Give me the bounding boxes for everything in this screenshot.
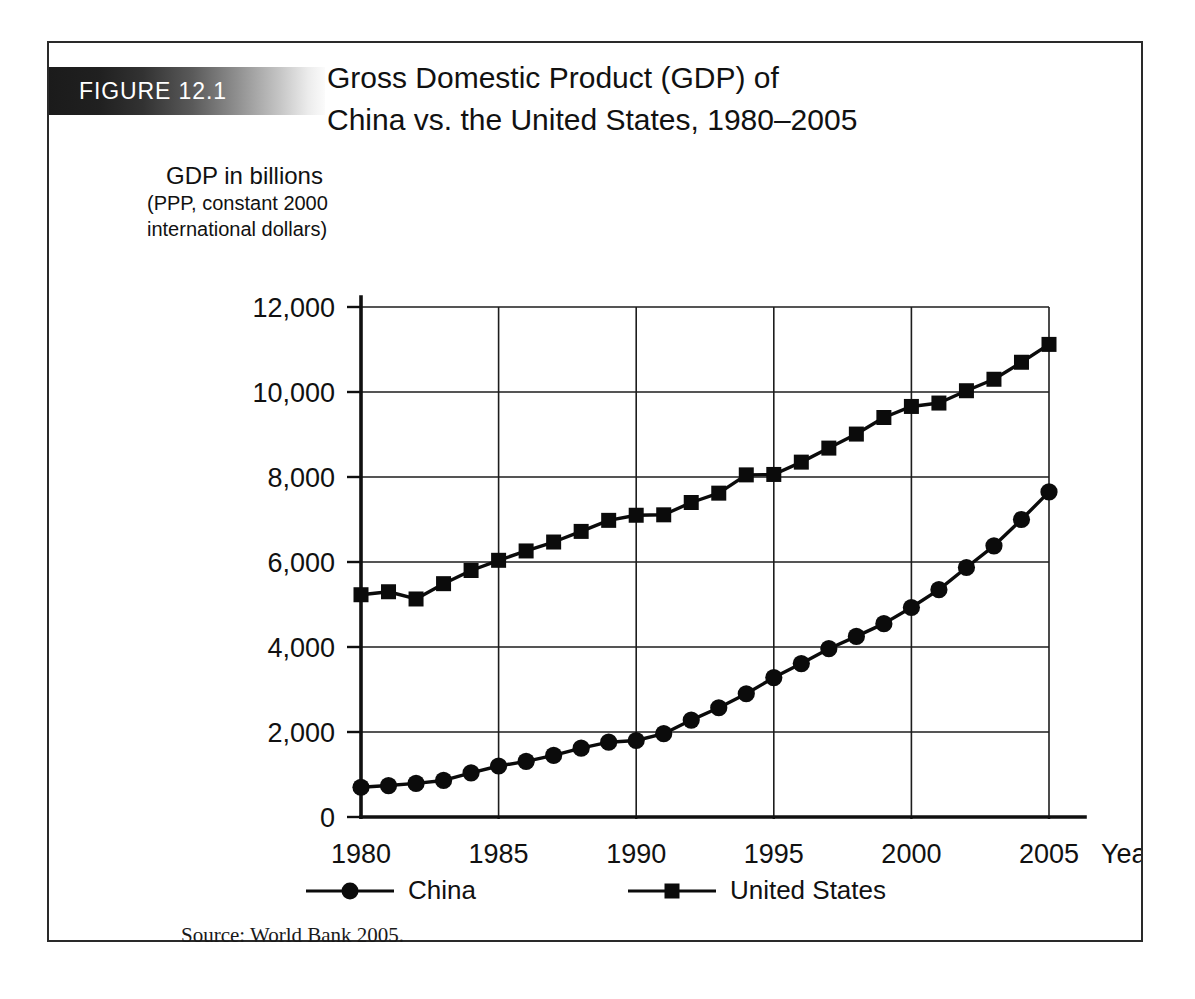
data-point-marker — [491, 553, 506, 568]
legend-label-united-states: United States — [730, 875, 886, 906]
y-tick-label: 12,000 — [252, 293, 335, 323]
y-tick-label: 10,000 — [252, 378, 335, 408]
gridlines-group — [361, 307, 1049, 817]
series-china — [352, 483, 1057, 796]
tick-labels-group: 02,0004,0006,0008,00010,00012,0001980198… — [252, 293, 1079, 869]
data-point-marker — [409, 591, 424, 606]
data-point-marker — [684, 495, 699, 510]
tick-marks-group — [347, 307, 1049, 819]
data-point-marker — [710, 699, 727, 716]
figure-frame: FIGURE 12.1 Gross Domestic Product (GDP)… — [47, 41, 1143, 942]
legend-item-united-states: United States — [626, 875, 886, 906]
data-point-marker — [794, 455, 809, 470]
data-point-marker — [683, 712, 700, 729]
y-tick-label: 4,000 — [267, 633, 335, 663]
data-point-marker — [1040, 483, 1057, 500]
data-point-marker — [848, 628, 865, 645]
figure-title-line-2: China vs. the United States, 1980–2005 — [327, 99, 1027, 141]
data-point-marker — [711, 486, 726, 501]
data-point-marker — [903, 599, 920, 616]
series-united-states — [354, 337, 1057, 607]
x-tick-label: 1995 — [744, 839, 804, 869]
data-point-marker — [490, 757, 507, 774]
data-point-marker — [766, 467, 781, 482]
series-group — [352, 337, 1057, 796]
figure-number-banner: FIGURE 12.1 — [49, 67, 325, 115]
y-axis-caption: GDP in billions (PPP, constant 2000 inte… — [147, 161, 477, 242]
data-point-marker — [985, 537, 1002, 554]
data-point-marker — [931, 396, 946, 411]
data-point-marker — [738, 685, 755, 702]
data-point-marker — [1042, 337, 1057, 352]
data-point-marker — [546, 535, 561, 550]
data-point-marker — [739, 467, 754, 482]
source-note: Source: World Bank 2005. — [181, 923, 404, 948]
data-point-marker — [407, 775, 424, 792]
legend-marker-square-icon — [626, 878, 718, 904]
data-point-marker — [1013, 511, 1030, 528]
x-tick-label: 1980 — [331, 839, 391, 869]
y-axis-caption-main: GDP in billions — [147, 161, 477, 190]
data-point-marker — [986, 372, 1001, 387]
figure-title-line-1: Gross Domestic Product (GDP) of — [327, 57, 1027, 99]
data-point-marker — [820, 640, 837, 657]
data-point-marker — [601, 513, 616, 528]
y-tick-label: 0 — [320, 803, 335, 833]
legend-item-china: China — [304, 875, 476, 906]
chart-legend: China United States — [49, 875, 1141, 906]
y-axis-caption-sub-1: (PPP, constant 2000 — [147, 190, 477, 216]
data-point-marker — [656, 507, 671, 522]
data-point-marker — [464, 563, 479, 578]
data-point-marker — [518, 753, 535, 770]
data-point-marker — [765, 669, 782, 686]
figure-number-label: FIGURE 12.1 — [49, 78, 227, 105]
data-point-marker — [574, 524, 589, 539]
x-axis-name: Year — [1101, 839, 1141, 869]
data-point-marker — [959, 383, 974, 398]
y-tick-label: 6,000 — [267, 548, 335, 578]
data-point-marker — [519, 543, 534, 558]
data-point-marker — [849, 427, 864, 442]
data-point-marker — [380, 777, 397, 794]
axis-name-group: Year — [1101, 839, 1141, 869]
legend-label-china: China — [408, 875, 476, 906]
x-tick-label: 1985 — [469, 839, 529, 869]
figure-title: Gross Domestic Product (GDP) of China vs… — [327, 57, 1027, 141]
axis-lines-group — [361, 297, 1085, 817]
data-point-marker — [545, 747, 562, 764]
data-point-marker — [436, 576, 451, 591]
x-tick-label: 2000 — [881, 839, 941, 869]
legend-marker-circle-icon — [304, 878, 396, 904]
y-tick-label: 2,000 — [267, 718, 335, 748]
y-tick-label: 8,000 — [267, 463, 335, 493]
data-point-marker — [793, 655, 810, 672]
data-point-marker — [930, 581, 947, 598]
series-line — [361, 492, 1049, 787]
data-point-marker — [352, 779, 369, 796]
data-point-marker — [381, 584, 396, 599]
data-point-marker — [354, 587, 369, 602]
data-point-marker — [821, 441, 836, 456]
data-point-marker — [600, 734, 617, 751]
data-point-marker — [958, 559, 975, 576]
data-point-marker — [655, 725, 672, 742]
data-point-marker — [573, 740, 590, 757]
data-point-marker — [435, 772, 452, 789]
data-point-marker — [876, 410, 891, 425]
chart-svg: 02,0004,0006,0008,00010,00012,0001980198… — [49, 233, 1141, 873]
x-tick-label: 2005 — [1019, 839, 1079, 869]
data-point-marker — [629, 508, 644, 523]
data-point-marker — [462, 764, 479, 781]
data-point-marker — [628, 732, 645, 749]
data-point-marker — [904, 399, 919, 414]
line-chart-plot: 02,0004,0006,0008,00010,00012,0001980198… — [49, 233, 1141, 873]
figure-page: FIGURE 12.1 Gross Domestic Product (GDP)… — [0, 0, 1195, 999]
series-line — [361, 344, 1049, 599]
data-point-marker — [1014, 355, 1029, 370]
x-tick-label: 1990 — [606, 839, 666, 869]
data-point-marker — [875, 615, 892, 632]
